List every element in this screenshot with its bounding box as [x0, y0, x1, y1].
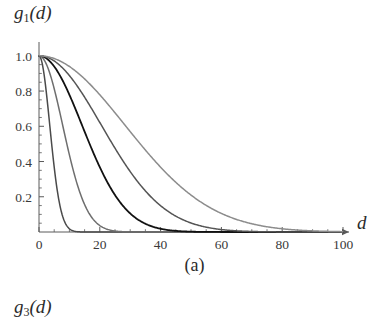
curves-layer — [39, 56, 343, 232]
y-axis-tick-label: 1.0 — [15, 49, 32, 64]
next-panel-label-base: g — [14, 296, 24, 317]
x-axis-tick-label: 100 — [333, 237, 354, 250]
x-axis-tick-label: 20 — [93, 237, 107, 250]
x-axis-tick-label: 80 — [275, 237, 289, 250]
y-axis-tick-label: 0.4 — [15, 155, 32, 170]
panel-caption: (a) — [0, 255, 389, 276]
figure-panel-a: g1(d) 0204060801000.20.40.60.81.0 d (a) … — [0, 0, 389, 325]
x-axis-tick-label: 40 — [154, 237, 168, 250]
curve-line — [39, 56, 343, 232]
next-panel-y-axis-label: g3(d) — [14, 296, 52, 320]
x-axis-tick-label: 0 — [36, 237, 43, 250]
y-axis-tick-label: 0.8 — [15, 84, 32, 99]
y-axis-tick-label: 0.2 — [15, 190, 32, 205]
next-panel-label-argument: (d) — [30, 296, 52, 317]
y-axis-tick-label: 0.6 — [15, 119, 32, 134]
x-axis-label: d — [357, 212, 367, 234]
x-axis-tick-label: 60 — [215, 237, 229, 250]
plot-canvas: 0204060801000.20.40.60.81.0 — [0, 0, 389, 250]
